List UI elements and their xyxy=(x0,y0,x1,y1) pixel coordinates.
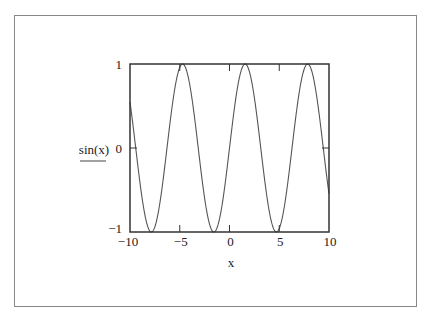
outer-border xyxy=(15,16,417,307)
y-tick-label: 0 xyxy=(116,141,123,156)
y-axis-label: sin(x) xyxy=(79,142,109,157)
x-tick-label: 0 xyxy=(227,234,234,249)
x-tick-label: 10 xyxy=(324,234,337,249)
x-tick-label: −10 xyxy=(118,234,138,249)
chart: −10−50510−101 sin(x) x xyxy=(0,0,433,321)
y-tick-label: −1 xyxy=(108,221,122,236)
x-axis-label: x xyxy=(228,255,235,270)
y-tick-label: 1 xyxy=(116,57,123,72)
x-tick-label: 5 xyxy=(277,234,284,249)
x-tick-label: −5 xyxy=(174,234,188,249)
